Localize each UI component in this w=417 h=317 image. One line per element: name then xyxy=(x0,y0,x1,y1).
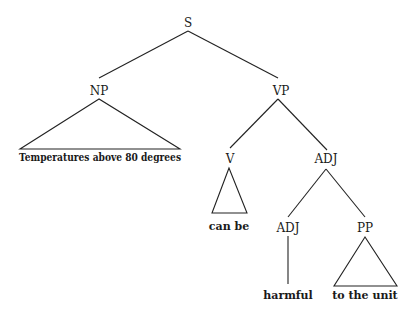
edge-adj-pp xyxy=(326,169,365,217)
leaf-v-text: can be xyxy=(209,220,249,233)
pp-triangle xyxy=(334,237,397,286)
v-triangle xyxy=(212,168,247,213)
leaf-np-text: Temperatures above 80 degrees xyxy=(19,151,181,164)
edge-adj-adj xyxy=(288,169,326,217)
node-np: NP xyxy=(90,84,109,98)
np-triangle xyxy=(20,99,180,149)
edge-s-np xyxy=(99,31,188,78)
node-s: S xyxy=(184,16,192,30)
node-vp: VP xyxy=(272,84,290,98)
edge-s-vp xyxy=(188,31,278,78)
parse-tree-diagram: S NP VP V ADJ ADJ PP Temperatures above … xyxy=(0,0,417,317)
edge-vp-v xyxy=(230,99,278,148)
leaf-adj-text: harmful xyxy=(263,289,312,302)
leaf-pp-text: to the unit xyxy=(332,289,398,302)
node-pp: PP xyxy=(357,221,373,235)
edge-vp-adj xyxy=(278,99,327,150)
node-adj-bottom: ADJ xyxy=(275,221,299,235)
node-adj-top: ADJ xyxy=(313,152,337,166)
node-v: V xyxy=(225,152,235,166)
